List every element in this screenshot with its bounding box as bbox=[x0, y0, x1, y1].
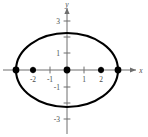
point-left-vertex bbox=[13, 67, 20, 74]
x-tick-label--1: -1 bbox=[47, 75, 53, 84]
point-left-focus bbox=[30, 67, 36, 73]
y-tick-label--1: -1 bbox=[54, 83, 60, 92]
y-tick-label-3: 3 bbox=[56, 17, 60, 26]
x-tick-label--2: -2 bbox=[30, 75, 36, 84]
point-right-vertex bbox=[115, 67, 122, 74]
ellipse-coordinate-plot: -2 -1 1 2 3 1 -1 -3 x y bbox=[0, 0, 148, 137]
x-axis-label: x bbox=[138, 66, 143, 75]
point-right-focus bbox=[98, 67, 104, 73]
y-tick-label--3: -3 bbox=[54, 115, 60, 124]
x-tick-label-2: 2 bbox=[99, 75, 103, 84]
x-axis-arrowhead bbox=[130, 67, 136, 72]
y-tick-label-1: 1 bbox=[56, 49, 60, 58]
point-center bbox=[64, 67, 71, 74]
y-axis-label: y bbox=[64, 0, 69, 9]
x-tick-label-1: 1 bbox=[82, 75, 86, 84]
